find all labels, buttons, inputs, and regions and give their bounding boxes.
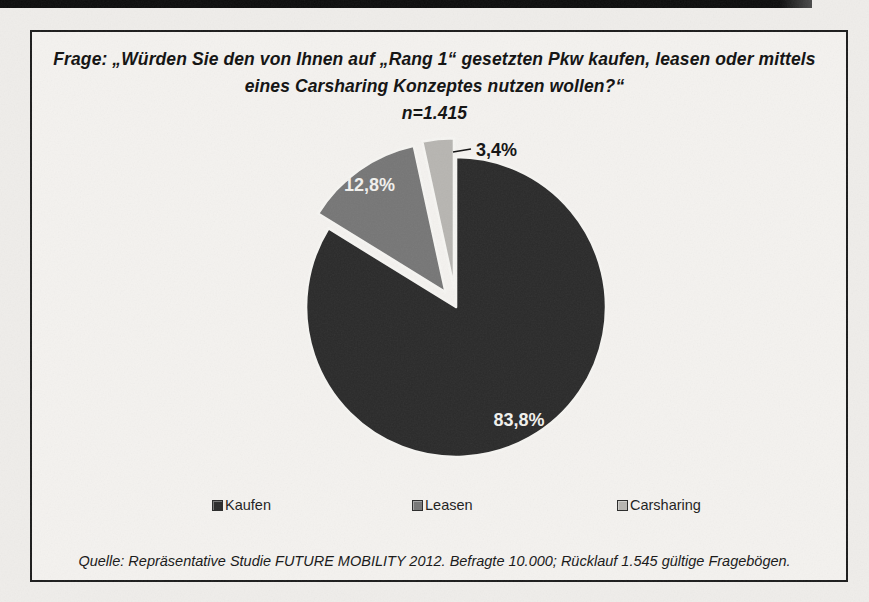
legend-item-kaufen: Kaufen bbox=[212, 497, 271, 513]
legend-swatch-leasen bbox=[412, 500, 423, 511]
pie-label-carsharing: 3,4% bbox=[476, 140, 517, 160]
pie-label-leasen: 12,8% bbox=[344, 175, 395, 195]
source-note: Quelle: Repräsentative Studie FUTURE MOB… bbox=[0, 553, 869, 569]
legend-label-leasen: Leasen bbox=[425, 497, 473, 513]
scanned-slide-page: Frage: „Würden Sie den von Ihnen auf „Ra… bbox=[0, 0, 869, 602]
legend-label-kaufen: Kaufen bbox=[225, 497, 271, 513]
chart-legend: Kaufen Leasen Carsharing bbox=[0, 497, 869, 517]
pie-callout-line-carsharing bbox=[453, 149, 471, 152]
pie-label-kaufen: 83,8% bbox=[493, 410, 544, 430]
legend-label-carsharing: Carsharing bbox=[630, 497, 701, 513]
legend-swatch-carsharing bbox=[617, 500, 628, 511]
legend-item-carsharing: Carsharing bbox=[617, 497, 701, 513]
legend-item-leasen: Leasen bbox=[412, 497, 473, 513]
legend-swatch-kaufen bbox=[212, 500, 223, 511]
